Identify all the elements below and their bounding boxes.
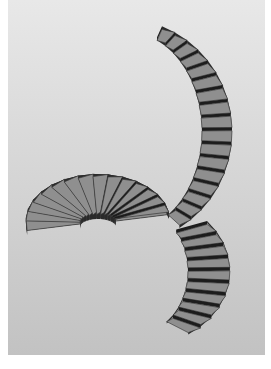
staircase-illustration — [8, 0, 265, 355]
staircase-render — [8, 0, 265, 355]
background — [8, 0, 265, 355]
stair-tread — [202, 131, 232, 142]
stair-tread — [201, 116, 232, 128]
